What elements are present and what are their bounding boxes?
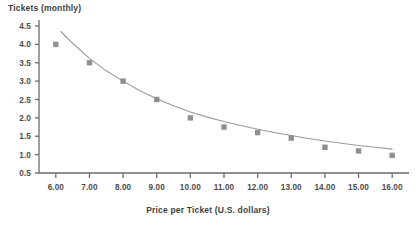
data-point-marker: [356, 148, 361, 153]
y-tick-label: 4.5: [19, 22, 31, 31]
data-point-marker: [87, 60, 92, 65]
x-tick-label: 10.00: [180, 183, 201, 192]
data-point-marker: [221, 124, 226, 129]
data-markers-group: [53, 42, 395, 158]
data-point-marker: [120, 78, 125, 83]
fitted-curve: [61, 32, 392, 150]
data-point-marker: [188, 115, 193, 120]
x-axis-title: Price per Ticket (U.S. dollars): [0, 205, 416, 215]
data-point-marker: [322, 145, 327, 150]
fitted-curve-group: [61, 32, 392, 150]
x-tick-label: 13.00: [281, 183, 302, 192]
x-tick-label: 11.00: [214, 183, 235, 192]
data-point-marker: [154, 97, 159, 102]
data-point-marker: [389, 153, 394, 158]
x-tick-label: 6.00: [48, 183, 65, 192]
y-tick-label: 2.5: [19, 96, 31, 105]
axis-lines: [39, 20, 409, 173]
x-tick-label: 14.00: [314, 183, 335, 192]
y-tick-label: 1.0: [19, 151, 31, 160]
data-point-marker: [289, 135, 294, 140]
x-tick-label: 8.00: [115, 183, 132, 192]
y-tick-label: 2.0: [19, 114, 31, 123]
data-point-marker: [255, 130, 260, 135]
data-point-marker: [53, 42, 58, 47]
x-tick-label: 15.00: [348, 183, 369, 192]
chart-container: Tickets (monthly) 0.51.01.52.02.53.03.54…: [0, 0, 416, 227]
y-tick-label: 3.0: [19, 77, 31, 86]
y-tick-label: 3.5: [19, 59, 31, 68]
x-tick-label: 9.00: [149, 183, 166, 192]
y-tick-label: 1.5: [19, 132, 31, 141]
x-tick-label: 16.00: [382, 183, 403, 192]
chart-plot-area: 0.51.01.52.02.53.03.54.04.56.007.008.009…: [0, 0, 416, 227]
y-tick-label: 4.0: [19, 40, 31, 49]
x-tick-label: 12.00: [247, 183, 268, 192]
axis-ticks-group: [35, 26, 392, 178]
x-tick-label: 7.00: [81, 183, 98, 192]
y-tick-label: 0.5: [19, 169, 31, 178]
